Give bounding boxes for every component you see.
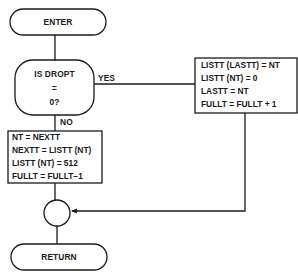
arrowhead-icon (71, 209, 77, 214)
yes-box-line-2: LISTT (NT) = 0 (201, 72, 258, 85)
decision-line-2: = (15, 83, 94, 93)
yes-return-line (72, 113, 245, 211)
yes-box-line-3: LASTT = NT (201, 85, 249, 98)
yes-box-line-1: LISTT (LASTT) = NT (201, 59, 280, 72)
yes-box-line-4: FULLT = FULLT + 1 (201, 98, 277, 111)
no-box-line-3: LISTT (NT) = 512 (12, 157, 78, 170)
no-box-line-1: NT = NEXTT (12, 131, 60, 144)
merge-connector (44, 200, 70, 226)
decision-line-3: 0? (15, 97, 94, 107)
yes-label: YES (98, 73, 115, 83)
no-box-line-2: NEXTT = LISTT (NT) (12, 144, 91, 157)
no-label: NO (60, 117, 73, 127)
decision-line-1: IS DROPT (15, 69, 94, 79)
enter-label: ENTER (10, 17, 106, 27)
no-box-line-4: FULLT = FULLT−1 (12, 170, 83, 183)
return-label: RETURN (11, 252, 107, 262)
